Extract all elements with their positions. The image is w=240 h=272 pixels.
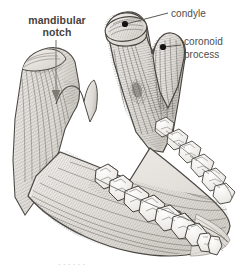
coronoid-process-label-line1: coronoid (184, 36, 223, 49)
condyle-label: condyle (171, 8, 206, 20)
condyle-dot (122, 21, 128, 27)
mandible-figure: mandibular notch condyle coronoid proces… (0, 0, 240, 272)
coronoid-dot (160, 44, 166, 50)
coronoid-process-label-line2: process (184, 49, 223, 62)
mandibular-notch-label: mandibular notch (16, 14, 98, 39)
bottom-text-fragment: · · · · · · (58, 263, 85, 269)
mandibular-notch-label-line2: notch (16, 26, 98, 38)
coronoid-process-label: coronoid process (184, 36, 223, 62)
mandibular-notch-label-line1: mandibular (16, 14, 98, 26)
bottom-cropped-text-strip: · · · · · · (0, 263, 240, 272)
